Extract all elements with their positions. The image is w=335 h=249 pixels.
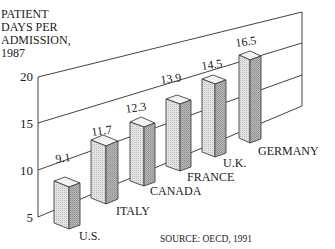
bars bbox=[54, 51, 261, 229]
ytick-10: 10 bbox=[20, 163, 33, 178]
title-line-1: PATIENT bbox=[1, 7, 49, 21]
ytick-5: 5 bbox=[27, 210, 34, 225]
title-line-3: ADMISSION, bbox=[1, 33, 71, 47]
title-line-4: 1987 bbox=[1, 46, 25, 60]
bar-germany bbox=[239, 51, 261, 143]
category-label-uk: U.K. bbox=[223, 156, 246, 170]
category-label-france: FRANCE bbox=[187, 170, 234, 184]
value-label-germany: 16.5 bbox=[234, 33, 257, 50]
value-label-canada: 12.3 bbox=[124, 99, 147, 116]
y-axis-labels: 20 15 10 5 bbox=[20, 69, 33, 225]
bar-italy bbox=[91, 135, 118, 204]
chart-canvas: PATIENT DAYS PER ADMISSION, 1987 20 15 1… bbox=[0, 0, 335, 249]
bar-uk bbox=[202, 75, 226, 157]
source-note: SOURCE: OECD, 1991 bbox=[160, 234, 252, 244]
category-label-us: U.S. bbox=[79, 229, 100, 243]
ytick-20: 20 bbox=[20, 69, 33, 84]
value-label-italy: 11.7 bbox=[90, 122, 112, 139]
category-label-canada: CANADA bbox=[150, 184, 202, 198]
value-label-us: 9.1 bbox=[54, 150, 71, 166]
chart-title: PATIENT DAYS PER ADMISSION, 1987 bbox=[1, 7, 71, 60]
bar-canada bbox=[130, 117, 155, 186]
gridline-20 bbox=[38, 12, 302, 77]
ytick-15: 15 bbox=[20, 116, 33, 131]
category-label-germany: GERMANY bbox=[258, 144, 319, 158]
bar-us bbox=[54, 177, 80, 229]
value-label-france: 13.9 bbox=[159, 70, 182, 87]
bar-chart: PATIENT DAYS PER ADMISSION, 1987 20 15 1… bbox=[0, 0, 335, 249]
value-labels: 9.1 11.7 12.3 13.9 14.5 16.5 bbox=[54, 33, 257, 166]
category-label-italy: ITALY bbox=[116, 204, 150, 218]
value-label-uk: 14.5 bbox=[200, 56, 223, 73]
bar-france bbox=[166, 95, 191, 171]
title-line-2: DAYS PER bbox=[1, 20, 58, 34]
